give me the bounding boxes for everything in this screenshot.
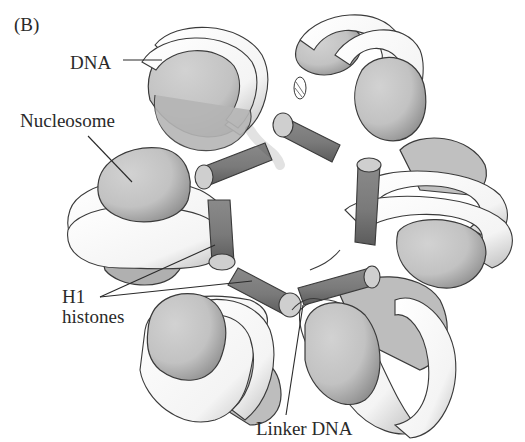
h1-histone-2: [273, 113, 340, 162]
h1-histone-6: [208, 200, 235, 270]
h1-histone-3: [355, 158, 381, 245]
linker-dna-leader-line: [286, 305, 303, 415]
panel-label: (B): [14, 14, 39, 35]
nucleosome-top-right: [294, 15, 426, 141]
nucleosome-bottom-left: [140, 294, 281, 425]
dna-label: DNA: [70, 52, 111, 73]
nucleosome-label: Nucleosome: [20, 110, 115, 131]
nucleosome-bottom-right: [299, 277, 455, 438]
h1-histones-label-line2: histones: [62, 306, 124, 327]
h1-histones-label-line1: H1: [62, 286, 85, 307]
linker-dna-label: Linker DNA: [256, 418, 353, 439]
